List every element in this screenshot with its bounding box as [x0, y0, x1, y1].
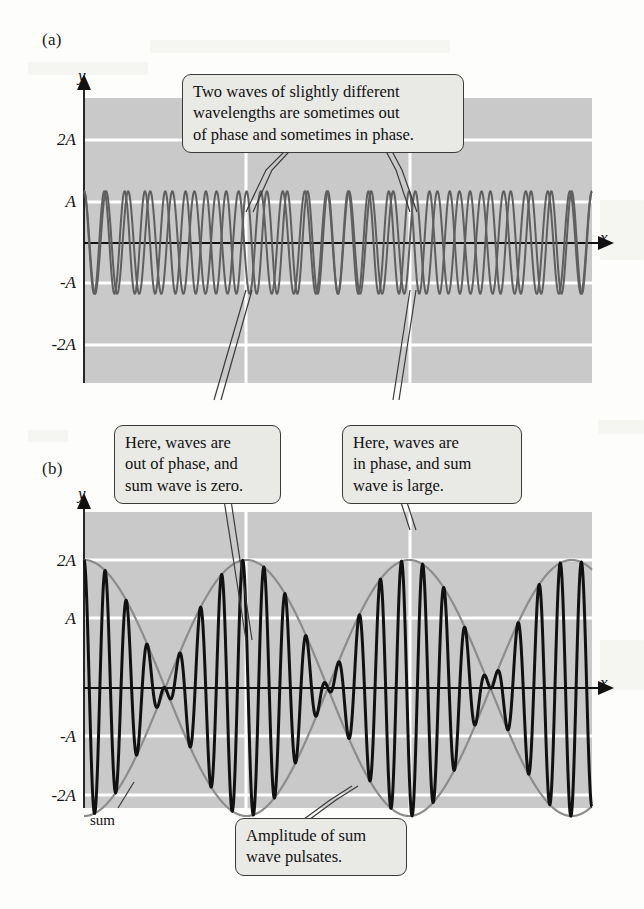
out-of-phase-callout: Here, waves are out of phase, and sum wa… [114, 425, 281, 504]
two-waves-callout-line-3: of phase and sometimes in phase. [193, 124, 454, 145]
two-waves-callout-line-2: wavelengths are sometimes out [193, 102, 454, 123]
in-phase-callout-line-2: in phase, and sum [353, 453, 512, 474]
pulsate-callout: Amplitude of sum wave pulsates. [235, 818, 407, 876]
panel-b-x-axis-arrow [598, 681, 614, 695]
panel-b-y-axis-arrow [77, 493, 91, 509]
in-phase-callout-line-1: Here, waves are [353, 432, 512, 453]
pulsate-callout-line-2: wave pulsates. [246, 846, 397, 867]
two-waves-callout-line-1: Two waves of slightly different [193, 81, 454, 102]
beats-figure: (a) y x 2A A -A -2A P R [0, 0, 644, 909]
pulsate-callout-line-1: Amplitude of sum [246, 825, 397, 846]
two-waves-callout: Two waves of slightly different waveleng… [182, 74, 464, 153]
out-of-phase-callout-line-3: sum wave is zero. [125, 475, 271, 496]
in-phase-callout-line-3: wave is large. [353, 475, 512, 496]
out-of-phase-callout-line-2: out of phase, and [125, 453, 271, 474]
out-of-phase-callout-line-1: Here, waves are [125, 432, 271, 453]
in-phase-callout: Here, waves are in phase, and sum wave i… [342, 425, 522, 504]
